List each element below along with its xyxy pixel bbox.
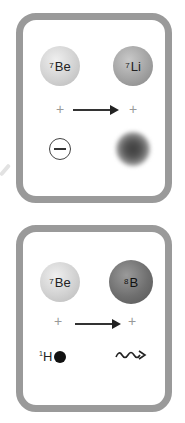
decorative-stroke [0, 163, 11, 176]
plus-sign: + [128, 314, 136, 328]
panel-proton-capture [16, 225, 172, 412]
b8-nucleus: 8B [109, 260, 153, 304]
electron-icon [49, 138, 71, 160]
plus-sign: + [54, 314, 62, 328]
neutrino-cloud-icon [116, 132, 150, 166]
be7-nucleus: 7Be [40, 262, 80, 302]
mass-number: 7 [49, 61, 53, 70]
plus-sign: + [129, 102, 137, 116]
mass-number: 8 [124, 277, 128, 286]
reaction-arrow-icon [73, 109, 117, 111]
li7-nucleus: 7Li [113, 46, 153, 86]
proton-icon [54, 351, 66, 363]
panel-electron-capture [16, 13, 172, 203]
element-symbol: Li [131, 59, 141, 74]
mass-number: 7 [49, 277, 53, 286]
photon-wave-icon [115, 348, 147, 362]
plus-sign: + [56, 102, 64, 116]
hydrogen-label: 1H [39, 349, 52, 364]
element-symbol: B [129, 275, 138, 290]
element-symbol: H [43, 349, 52, 364]
element-symbol: Be [55, 59, 71, 74]
element-symbol: Be [55, 275, 71, 290]
be7-nucleus: 7Be [40, 46, 80, 86]
reaction-arrow-icon [75, 323, 119, 325]
mass-number: 7 [125, 61, 129, 70]
